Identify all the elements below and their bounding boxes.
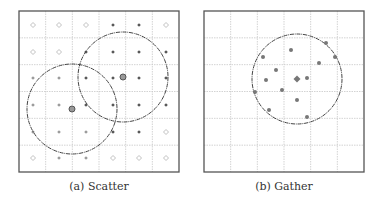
dark-diamond-point	[137, 103, 141, 107]
dark-diamond-point	[84, 76, 88, 80]
neighbor-point	[317, 61, 321, 65]
neighbor-point	[261, 55, 265, 59]
dark-diamond-point	[137, 130, 141, 134]
hollow-diamond-point	[164, 23, 169, 28]
hollow-diamond-point	[164, 156, 169, 161]
scatter-caption: (a) Scatter	[69, 180, 129, 193]
light-diamond-point	[57, 130, 61, 134]
neighbor-point	[295, 98, 299, 102]
hollow-diamond-point	[31, 156, 36, 161]
light-diamond-point	[31, 103, 35, 107]
dark-diamond-point	[137, 23, 141, 27]
dark-diamond-point	[111, 76, 115, 80]
dark-diamond-point	[137, 50, 141, 54]
dark-diamond-point	[164, 50, 168, 54]
light-diamond-point	[84, 156, 88, 160]
dark-diamond-point	[111, 23, 115, 27]
dark-diamond-point	[164, 103, 168, 107]
hollow-diamond-point	[137, 156, 142, 161]
scatter-panel	[19, 11, 179, 172]
hollow-diamond-point	[111, 156, 116, 161]
hollow-diamond-point	[57, 23, 62, 28]
dark-diamond-point	[164, 76, 168, 80]
light-diamond-point	[57, 156, 61, 160]
neighbor-point	[267, 108, 271, 112]
hollow-diamond-point	[84, 23, 89, 28]
dark-diamond-point	[111, 103, 115, 107]
light-diamond-point	[57, 76, 61, 80]
hollow-diamond-point	[31, 23, 36, 28]
light-diamond-point	[31, 76, 35, 80]
neighbor-point	[305, 115, 309, 119]
neighbor-point	[280, 88, 284, 92]
dark-diamond-point	[137, 76, 141, 80]
neighbor-point	[324, 41, 328, 45]
source-point	[120, 74, 126, 80]
neighbor-point	[264, 78, 268, 82]
dark-diamond-point	[111, 50, 115, 54]
source-point	[69, 106, 75, 112]
neighbor-point	[274, 68, 278, 72]
hollow-diamond-point	[164, 130, 169, 135]
neighbor-point	[253, 90, 257, 94]
figure-canvas	[0, 0, 384, 203]
neighbor-point	[333, 55, 337, 59]
gather-panel	[204, 11, 364, 172]
hollow-diamond-point	[57, 50, 62, 55]
neighbor-point	[305, 76, 309, 80]
center-diamond-point	[294, 76, 301, 83]
gather-caption: (b) Gather	[255, 180, 313, 193]
hollow-diamond-point	[31, 50, 36, 55]
light-diamond-point	[84, 130, 88, 134]
neighbor-point	[289, 48, 293, 52]
light-diamond-point	[57, 103, 61, 107]
